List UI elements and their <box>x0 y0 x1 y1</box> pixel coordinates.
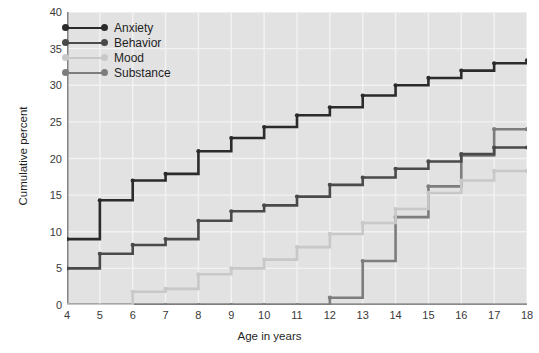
series-point-mood <box>98 303 102 305</box>
series-point-anxiety <box>393 83 397 87</box>
series-point-substance <box>492 127 496 131</box>
series-point-mood <box>67 303 69 305</box>
legend-item-behavior: Behavior <box>62 35 171 50</box>
series-point-behavior <box>328 183 332 187</box>
series-point-substance <box>525 127 527 131</box>
series-point-mood <box>196 272 200 276</box>
series-point-mood <box>295 245 299 249</box>
x-tick-4: 4 <box>52 309 82 321</box>
legend-swatch-icon <box>62 22 108 34</box>
series-point-behavior <box>459 152 463 156</box>
x-tick-5: 5 <box>85 309 115 321</box>
series-point-anxiety <box>459 69 463 73</box>
series-point-substance <box>361 259 365 263</box>
x-tick-17: 17 <box>479 309 509 321</box>
series-point-anxiety <box>426 76 430 80</box>
series-point-behavior <box>163 237 167 241</box>
x-tick-13: 13 <box>348 309 378 321</box>
x-tick-12: 12 <box>315 309 345 321</box>
series-point-mood <box>426 191 430 195</box>
series-point-behavior <box>229 209 233 213</box>
legend-item-substance: Substance <box>62 65 171 80</box>
series-point-behavior <box>196 219 200 223</box>
legend-label: Anxiety <box>114 21 153 35</box>
x-tick-11: 11 <box>282 309 312 321</box>
y-axis-tick-labels: 0510152025303540 <box>30 0 62 353</box>
series-point-mood <box>328 232 332 236</box>
series-point-behavior <box>262 203 266 207</box>
series-point-anxiety <box>98 198 102 202</box>
series-point-mood <box>163 287 167 291</box>
x-tick-16: 16 <box>446 309 476 321</box>
x-tick-8: 8 <box>183 309 213 321</box>
x-tick-7: 7 <box>151 309 181 321</box>
y-tick-35: 35 <box>36 44 62 54</box>
y-tick-40: 40 <box>36 7 62 17</box>
legend-swatch-icon <box>62 52 108 64</box>
x-tick-9: 9 <box>216 309 246 321</box>
series-point-anxiety <box>229 136 233 140</box>
series-point-mood <box>131 290 135 294</box>
chart-figure: 0510152025303540 45678910111213141516171… <box>0 0 539 353</box>
series-point-mood <box>361 221 365 225</box>
x-tick-18: 18 <box>512 309 539 321</box>
x-tick-15: 15 <box>413 309 443 321</box>
series-point-anxiety <box>295 113 299 117</box>
series-point-anxiety <box>131 178 135 182</box>
x-tick-14: 14 <box>381 309 411 321</box>
series-point-mood <box>262 257 266 261</box>
series-point-anxiety <box>328 105 332 109</box>
series-point-behavior <box>492 145 496 149</box>
series-point-substance <box>328 296 332 300</box>
chart-legend: AnxietyBehaviorMoodSubstance <box>62 20 171 80</box>
legend-swatch-icon <box>62 37 108 49</box>
y-tick-10: 10 <box>36 227 62 237</box>
legend-item-anxiety: Anxiety <box>62 20 171 35</box>
y-tick-20: 20 <box>36 154 62 164</box>
x-axis-title: Age in years <box>0 330 539 342</box>
series-point-substance <box>262 303 266 305</box>
y-tick-30: 30 <box>36 80 62 90</box>
series-point-behavior <box>393 167 397 171</box>
series-point-behavior <box>361 175 365 179</box>
x-tick-10: 10 <box>249 309 279 321</box>
legend-label: Substance <box>114 66 171 80</box>
series-point-behavior <box>295 194 299 198</box>
x-tick-6: 6 <box>118 309 148 321</box>
y-tick-15: 15 <box>36 190 62 200</box>
series-point-behavior <box>426 159 430 163</box>
series-point-behavior <box>98 252 102 256</box>
series-point-substance <box>426 184 430 188</box>
series-point-mood <box>229 266 233 270</box>
y-axis-title: Cumulative percent <box>17 81 29 231</box>
series-point-anxiety <box>525 58 527 62</box>
legend-swatch-icon <box>62 67 108 79</box>
series-point-behavior <box>67 266 69 270</box>
series-point-substance <box>163 303 167 305</box>
series-point-mood <box>492 169 496 173</box>
series-point-anxiety <box>67 237 69 241</box>
legend-label: Mood <box>114 51 144 65</box>
series-point-substance <box>229 303 233 305</box>
y-tick-5: 5 <box>36 263 62 273</box>
series-point-behavior <box>525 145 527 149</box>
series-point-mood <box>459 178 463 182</box>
legend-item-mood: Mood <box>62 50 171 65</box>
series-point-substance <box>295 303 299 305</box>
series-point-anxiety <box>196 149 200 153</box>
series-point-anxiety <box>492 61 496 65</box>
legend-label: Behavior <box>114 36 161 50</box>
series-point-mood <box>525 169 527 173</box>
series-point-mood <box>393 207 397 211</box>
series-point-behavior <box>131 243 135 247</box>
series-point-anxiety <box>163 172 167 176</box>
series-point-anxiety <box>361 93 365 97</box>
series-point-anxiety <box>262 125 266 129</box>
y-tick-25: 25 <box>36 117 62 127</box>
series-point-substance <box>196 303 200 305</box>
